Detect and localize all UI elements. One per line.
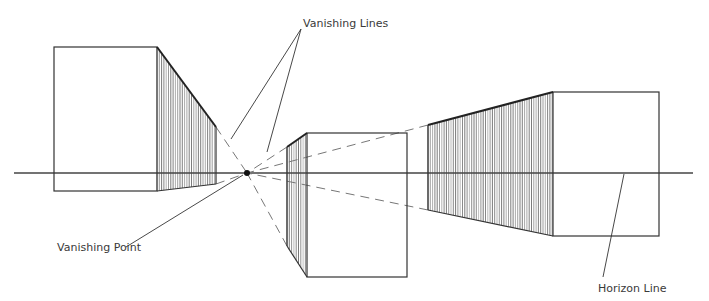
front-face: [553, 92, 659, 236]
front-face: [54, 47, 157, 191]
label-vanishing-point: Vanishing Point: [57, 241, 142, 254]
leader-vanishing-lines-2: [267, 29, 301, 152]
leader-vanishing-lines-1: [231, 29, 301, 139]
boxes: [54, 47, 659, 277]
perspective-diagram: Vanishing Lines Vanishing Point Horizon …: [0, 0, 709, 301]
leader-horizon-line: [603, 174, 624, 277]
front-face: [307, 133, 407, 277]
label-horizon-line: Horizon Line: [598, 282, 667, 295]
vanishing-guide-lines: [216, 125, 428, 246]
vanishing-point-dot: [244, 170, 250, 176]
label-vanishing-lines: Vanishing Lines: [303, 17, 389, 30]
